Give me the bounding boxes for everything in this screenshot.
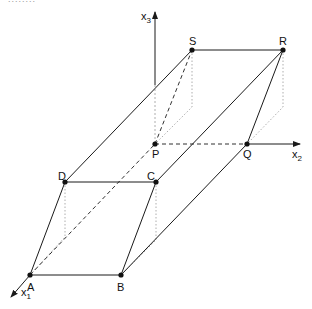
point-Q [244, 141, 249, 146]
vertices [27, 47, 285, 277]
label-B: B [117, 281, 124, 293]
label-R: R [279, 35, 287, 47]
label-D: D [58, 170, 66, 182]
parallelepiped-diagram: A B C D P Q R S x3 x2 x1 [0, 0, 312, 309]
point-R [280, 47, 285, 52]
label-P: P [152, 148, 159, 160]
point-A [27, 272, 32, 277]
label-S: S [189, 35, 196, 47]
label-C: C [147, 170, 155, 182]
construction-lines [30, 50, 283, 275]
label-Q: Q [243, 148, 252, 160]
point-S [189, 47, 194, 52]
axis-label-x3: x3 [141, 10, 152, 25]
point-B [118, 272, 123, 277]
visible-edges [30, 50, 283, 275]
point-P [152, 141, 157, 146]
axis-label-x2: x2 [292, 148, 303, 163]
hidden-edges [30, 50, 247, 275]
